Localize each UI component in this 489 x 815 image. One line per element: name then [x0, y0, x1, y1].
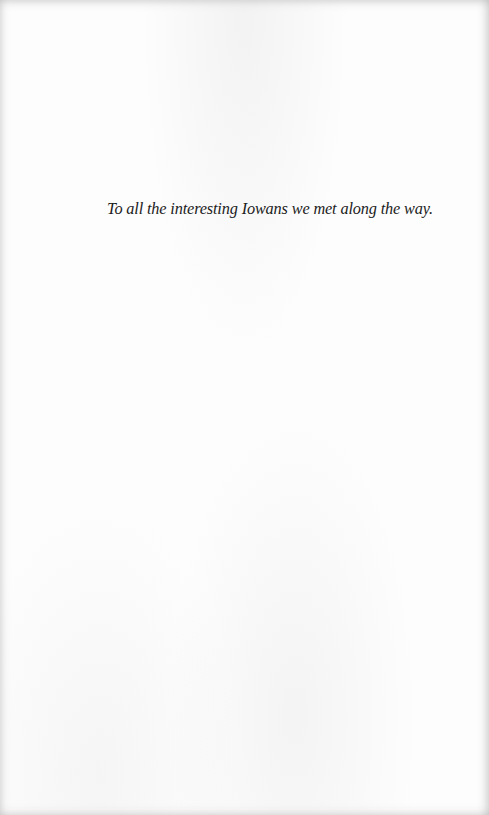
paper-texture	[0, 0, 489, 815]
dedication-text: To all the interesting Iowans we met alo…	[107, 199, 377, 219]
book-page: To all the interesting Iowans we met alo…	[0, 0, 489, 815]
